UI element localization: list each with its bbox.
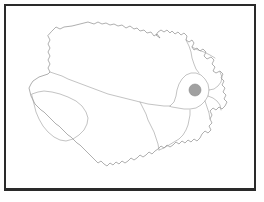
location-marker-icon[interactable] xyxy=(189,84,201,96)
region-map-svg[interactable] xyxy=(6,6,254,188)
panel-divider xyxy=(4,189,256,191)
figure-panel xyxy=(4,4,256,190)
map-area[interactable] xyxy=(6,6,254,188)
screenshot-root xyxy=(0,0,264,202)
